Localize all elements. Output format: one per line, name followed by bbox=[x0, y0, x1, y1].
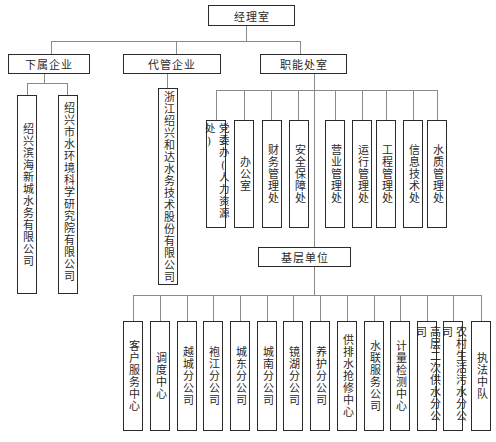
connector bbox=[133, 295, 134, 321]
node-subsidiary-enterprises: 下属企业 bbox=[8, 54, 90, 74]
node-label: 浙江绍兴和达水务技术股份有限公司 bbox=[161, 91, 176, 283]
node-label: 信息技术处 bbox=[406, 144, 421, 204]
node-label: 镜湖分公司 bbox=[286, 346, 301, 406]
connector bbox=[427, 295, 428, 321]
node-grassroots-unit: 农村生活污水分公司 bbox=[443, 321, 463, 431]
node-managed-company: 浙江绍兴和达水务技术股份有限公司 bbox=[158, 88, 178, 285]
connector bbox=[246, 25, 247, 41]
node-grassroots-unit: 计量检测中心 bbox=[390, 321, 410, 431]
node-label: 基层单位 bbox=[281, 249, 329, 265]
node-grassroots-unit: 水联服务公司 bbox=[364, 321, 384, 431]
node-functional-departments: 职能处室 bbox=[260, 54, 347, 74]
node-functional-dept: 安全保障处 bbox=[289, 120, 309, 228]
node-label: 运行管理处 bbox=[355, 144, 370, 204]
node-grassroots-unit: 城东分公司 bbox=[230, 321, 250, 431]
node-label: 调度中心 bbox=[153, 352, 168, 400]
node-label: 职能处室 bbox=[280, 56, 328, 72]
node-functional-dept: 办公室 bbox=[234, 120, 254, 228]
node-label: 袍江分公司 bbox=[206, 346, 221, 406]
connector bbox=[44, 73, 45, 83]
connector bbox=[298, 90, 299, 120]
node-grassroots-unit: 客户服务中心 bbox=[123, 321, 143, 431]
node-grassroots-unit: 调度中心 bbox=[150, 321, 170, 431]
node-label: 水联服务公司 bbox=[367, 340, 382, 412]
connector bbox=[27, 83, 28, 95]
node-functional-dept: 财务管理处 bbox=[262, 120, 282, 228]
connector bbox=[167, 73, 168, 88]
root-node-manager-office: 经理室 bbox=[208, 5, 295, 26]
node-label: 水质管理处 bbox=[430, 144, 445, 204]
connector bbox=[314, 73, 315, 247]
node-functional-dept: 工程管理处 bbox=[376, 120, 396, 228]
node-label: 供排水抢修中心 bbox=[340, 334, 355, 418]
org-chart: 经理室 下属企业 代管企业 职能处室 绍兴滨海新城水务有限公司 绍兴市水环境科学… bbox=[0, 0, 496, 442]
node-grassroots-unit: 越城分公司 bbox=[177, 321, 197, 431]
connector bbox=[176, 41, 177, 54]
connector bbox=[27, 83, 68, 84]
connector bbox=[244, 90, 245, 120]
connector bbox=[362, 90, 363, 120]
node-label: 经理室 bbox=[234, 8, 270, 24]
node-functional-dept: 党委办(人力资源处) bbox=[206, 120, 226, 228]
node-label: 办公室 bbox=[237, 156, 252, 192]
connector bbox=[453, 295, 454, 321]
node-functional-dept: 运行管理处 bbox=[352, 120, 372, 228]
connector bbox=[187, 295, 188, 321]
connector bbox=[240, 295, 241, 321]
node-functional-dept: 营业管理处 bbox=[325, 120, 345, 228]
connector bbox=[160, 295, 161, 321]
node-label: 客户服务中心 bbox=[126, 340, 141, 412]
node-label: 执法中队 bbox=[474, 352, 489, 400]
node-grassroots-unit: 袍江分公司 bbox=[203, 321, 223, 431]
node-label: 绍兴滨海新城水务有限公司 bbox=[20, 123, 35, 267]
connector bbox=[271, 90, 272, 120]
node-label: 城南分公司 bbox=[260, 346, 275, 406]
connector bbox=[347, 295, 348, 321]
node-managed-enterprises: 代管企业 bbox=[123, 54, 221, 74]
node-label: 代管企业 bbox=[148, 56, 196, 72]
connector bbox=[267, 295, 268, 321]
connector bbox=[300, 41, 301, 54]
connector bbox=[51, 41, 52, 54]
connector bbox=[437, 90, 438, 120]
node-label: 营业管理处 bbox=[328, 144, 343, 204]
node-label: 财务管理处 bbox=[265, 144, 280, 204]
connector bbox=[216, 90, 438, 91]
connector bbox=[320, 295, 321, 321]
node-grassroots-unit: 高层二次供水分公司 bbox=[417, 321, 437, 431]
node-label: 农村生活污水分公司 bbox=[439, 326, 467, 430]
node-label: 工程管理处 bbox=[379, 144, 394, 204]
node-grassroots-unit: 养护分公司 bbox=[310, 321, 330, 431]
node-grassroots-unit: 城南分公司 bbox=[257, 321, 277, 431]
connector bbox=[293, 295, 294, 321]
connector bbox=[400, 295, 401, 321]
connector bbox=[481, 295, 482, 321]
connector bbox=[386, 90, 387, 120]
node-grassroots-unit: 镜湖分公司 bbox=[283, 321, 303, 431]
connector bbox=[133, 295, 482, 296]
node-label: 城东分公司 bbox=[233, 346, 248, 406]
node-label: 下属企业 bbox=[25, 56, 73, 72]
node-subsidiary: 绍兴市水环境科学研究院有限公司 bbox=[58, 95, 78, 294]
connector bbox=[314, 266, 315, 295]
connector bbox=[213, 295, 214, 321]
connector bbox=[413, 90, 414, 120]
node-grassroots-units: 基层单位 bbox=[258, 247, 351, 267]
node-label: 越城分公司 bbox=[180, 346, 195, 406]
connector bbox=[335, 90, 336, 120]
connector bbox=[67, 83, 68, 95]
node-label: 养护分公司 bbox=[313, 346, 328, 406]
node-label: 绍兴市水环境科学研究院有限公司 bbox=[61, 102, 76, 282]
node-subsidiary: 绍兴滨海新城水务有限公司 bbox=[17, 95, 37, 294]
node-label: 计量检测中心 bbox=[393, 340, 408, 412]
connector bbox=[374, 295, 375, 321]
node-functional-dept: 信息技术处 bbox=[403, 120, 423, 228]
node-label: 安全保障处 bbox=[292, 144, 307, 204]
connector bbox=[216, 90, 217, 120]
node-grassroots-unit: 供排水抢修中心 bbox=[337, 321, 357, 431]
node-grassroots-unit: 执法中队 bbox=[471, 321, 491, 431]
node-label: 高层二次供水分公司 bbox=[413, 326, 441, 430]
node-functional-dept: 水质管理处 bbox=[427, 120, 447, 228]
node-label: 党委办(人力资源处) bbox=[202, 123, 230, 227]
